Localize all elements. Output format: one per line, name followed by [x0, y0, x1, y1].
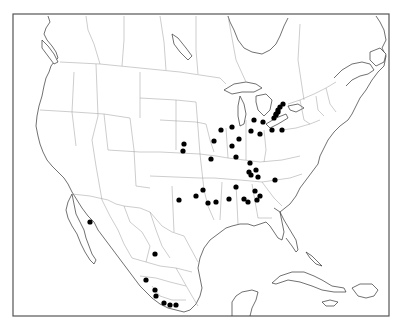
locality-marker-mx-2: [87, 219, 92, 224]
locality-marker-in-2: [236, 136, 241, 141]
locality-marker-ga-1: [257, 193, 262, 198]
locality-marker-sc-1: [272, 177, 277, 182]
locality-marker-tn-2: [248, 172, 253, 177]
locality-marker-oh-5: [257, 131, 262, 136]
locality-marker-mx-5: [152, 287, 157, 292]
locality-marker-mx-7: [161, 300, 166, 305]
locality-marker-ky-2: [253, 167, 258, 172]
locality-marker-ms-1: [233, 184, 238, 189]
locality-marker-47: [173, 302, 178, 307]
locality-marker-mx-6: [153, 293, 158, 298]
locality-marker-oh-2: [269, 127, 274, 132]
locality-marker-mx-3: [152, 251, 157, 256]
locality-marker-chih-1: [180, 148, 185, 153]
locality-marker-mi-5: [251, 117, 256, 122]
locality-marker-tn-3: [255, 174, 260, 179]
locality-marker-oh-3: [279, 127, 284, 132]
locality-marker-tx-1: [213, 199, 218, 204]
range-map: [0, 0, 400, 327]
map-canvas: [0, 0, 400, 327]
locality-marker-mo-1: [200, 187, 205, 192]
locality-marker-oh-1: [260, 119, 265, 124]
locality-marker-on-3: [271, 115, 276, 120]
locality-marker-il-2: [211, 138, 216, 143]
locality-marker-oh-4: [248, 128, 253, 133]
locality-marker-mo-2: [193, 193, 198, 198]
locality-marker-in-3: [229, 143, 234, 148]
locality-marker-in-1: [229, 124, 234, 129]
locality-marker-la-1: [245, 199, 250, 204]
locality-marker-ms-2: [226, 196, 231, 201]
locality-marker-46: [167, 302, 172, 307]
locality-marker-il-1: [218, 127, 223, 132]
locality-marker-ky-1: [247, 160, 252, 165]
locality-marker-al-2: [252, 188, 257, 193]
locality-marker-mx-1: [181, 141, 186, 146]
locality-marker-tx-2: [205, 200, 210, 205]
locality-marker-il-3: [208, 156, 213, 161]
locality-marker-in-4: [233, 154, 238, 159]
locality-marker-mx-4: [143, 277, 148, 282]
locality-marker-tx-3: [176, 197, 181, 202]
